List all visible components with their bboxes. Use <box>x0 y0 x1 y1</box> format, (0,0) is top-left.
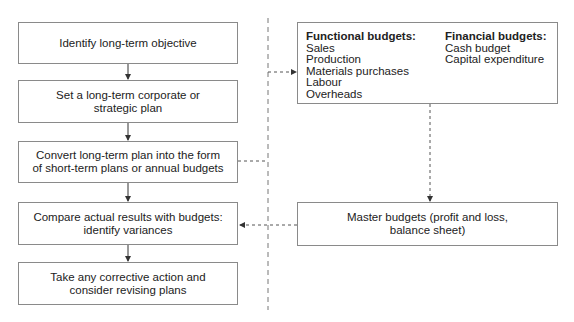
master-budgets-box: Master budgets (profit and loss,balance … <box>297 202 558 246</box>
step-text: consider revising plans <box>50 284 205 297</box>
step-text: of short-term plans or annual budgets <box>32 162 223 175</box>
financial-item: Capital expenditure <box>445 54 547 66</box>
master-text: balance sheet) <box>347 224 508 237</box>
functional-item: Production <box>306 54 416 66</box>
step-text: strategic plan <box>56 102 200 115</box>
functional-item: Overheads <box>306 89 416 101</box>
step-text: Convert long-term plan into the form <box>32 149 223 162</box>
step-corrective-action: Take any corrective action andconsider r… <box>18 262 238 305</box>
step-convert-plan: Convert long-term plan into the formof s… <box>18 141 238 183</box>
master-text: Master budgets (profit and loss, <box>347 211 508 224</box>
financial-heading: Financial budgets: <box>445 31 547 43</box>
functional-item: Labour <box>306 77 416 89</box>
step-text: Identify long-term objective <box>59 37 196 50</box>
functional-heading: Functional budgets: <box>306 31 416 43</box>
step-text: Take any corrective action and <box>50 271 205 284</box>
step-text: Compare actual results with budgets: <box>33 211 222 224</box>
budgets-box: Functional budgets: Sales Production Mat… <box>297 22 558 104</box>
step-identify-objective: Identify long-term objective <box>18 22 238 64</box>
step-set-plan: Set a long-term corporate orstrategic pl… <box>18 80 238 123</box>
step-text: Set a long-term corporate or <box>56 89 200 102</box>
step-text: identify variances <box>33 224 222 237</box>
financial-budgets: Financial budgets: Cash budget Capital e… <box>445 31 547 66</box>
functional-budgets: Functional budgets: Sales Production Mat… <box>306 31 416 100</box>
step-compare-results: Compare actual results with budgets:iden… <box>18 202 238 245</box>
